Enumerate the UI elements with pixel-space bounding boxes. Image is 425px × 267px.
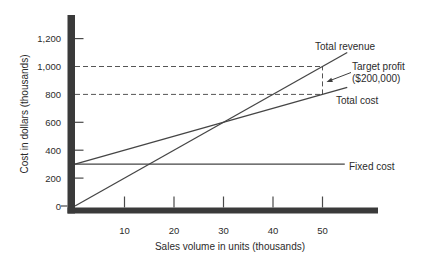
- x-tick-label: 20: [169, 225, 180, 236]
- x-tick-label: 40: [268, 225, 279, 236]
- y-tick-label: 200: [45, 173, 61, 184]
- y-axis-tick-labels: 02004006008001,0001,200: [37, 33, 61, 211]
- y-tick-label: 800: [45, 89, 61, 100]
- y-tick-label: 600: [45, 117, 61, 128]
- total-revenue-label: Total revenue: [315, 41, 375, 52]
- x-tick-label: 50: [317, 225, 328, 236]
- total-cost-label: Total cost: [336, 95, 378, 106]
- chart-canvas: 02004006008001,0001,200 Cost in dollars …: [0, 0, 425, 267]
- y-tick-label: 0: [56, 201, 61, 212]
- x-axis-tick-labels: 1020304050: [119, 225, 328, 236]
- y-tick-label: 1,000: [37, 61, 61, 72]
- x-axis-bar: [68, 208, 379, 214]
- target-profit-arrowhead-icon: [327, 78, 333, 82]
- target-profit-label-line1: Target profit: [352, 61, 405, 72]
- target-profit-label-line2: ($200,000): [352, 73, 400, 84]
- annotations: Total revenue Target profit ($200,000) T…: [315, 41, 405, 172]
- y-axis-title: Cost in dollars (thousands): [19, 55, 30, 174]
- series-line-total-cost: [75, 87, 347, 164]
- x-axis-title: Sales volume in units (thousands): [155, 241, 305, 252]
- x-axis: 1020304050 Sales volume in units (thousa…: [68, 197, 379, 253]
- dashed-guides: [75, 67, 323, 95]
- fixed-cost-label: Fixed cost: [349, 161, 395, 172]
- series-lines: [75, 53, 347, 206]
- x-axis-ticks: [125, 197, 323, 208]
- y-axis-bar: [68, 15, 76, 214]
- series-line-total-revenue: [75, 53, 347, 206]
- x-tick-label: 10: [119, 225, 130, 236]
- cvp-chart: 02004006008001,0001,200 Cost in dollars …: [0, 0, 425, 267]
- x-tick-label: 30: [218, 225, 229, 236]
- y-axis: 02004006008001,0001,200 Cost in dollars …: [19, 15, 84, 214]
- y-tick-label: 1,200: [37, 33, 61, 44]
- y-tick-label: 400: [45, 145, 61, 156]
- target-profit-arrow-line: [332, 73, 352, 81]
